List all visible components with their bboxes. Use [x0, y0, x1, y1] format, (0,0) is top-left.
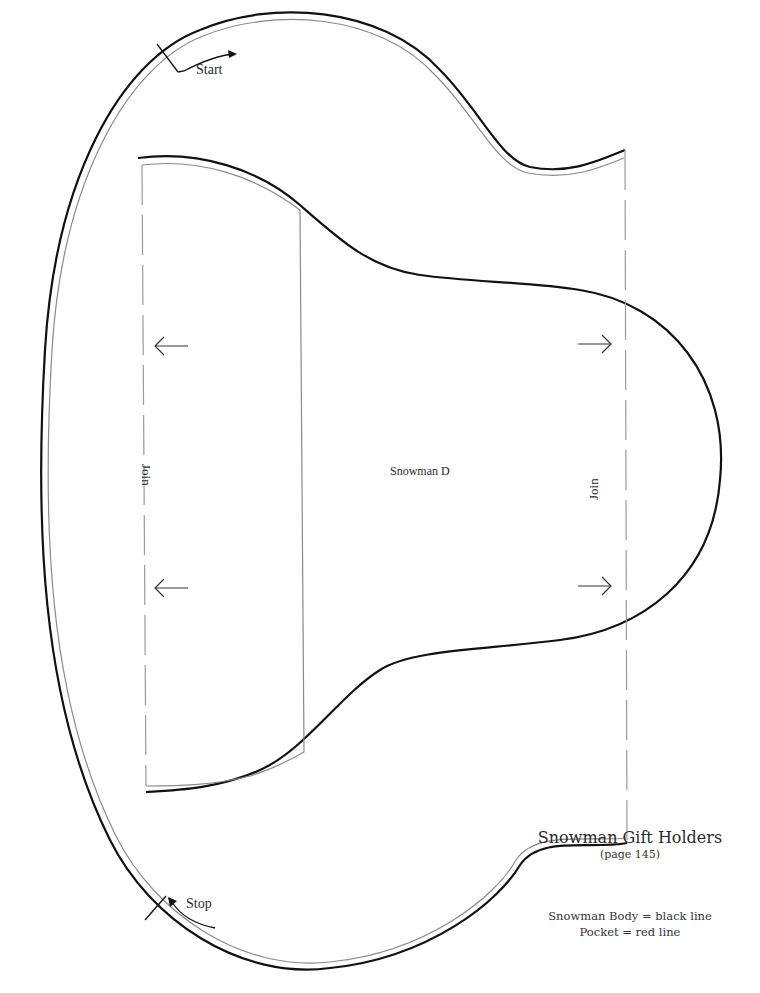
join-right-dash — [625, 150, 627, 843]
title-block: Snowman Gift Holders (page 145) — [520, 828, 740, 861]
outer-top-body-line — [200, 12, 625, 169]
arrow-left-icon — [155, 337, 188, 355]
join-left-label: Join — [138, 464, 154, 486]
pattern-subtitle: (page 145) — [520, 848, 740, 861]
legend-pocket: Pocket = red line — [520, 924, 740, 940]
outer-top-pocket-line — [203, 19, 624, 175]
join-right-label: Join — [586, 478, 602, 500]
legend-body: Snowman Body = black line — [520, 908, 740, 924]
legend: Snowman Body = black line Pocket = red l… — [520, 908, 740, 940]
stop-tick — [145, 896, 166, 920]
arrow-right-icon — [578, 577, 611, 595]
piece-name: Snowman D — [390, 464, 450, 479]
stop-label: Stop — [186, 896, 212, 912]
inner-pocket-line — [142, 164, 304, 786]
arrow-left-icon — [155, 579, 188, 597]
arrow-right-icon — [578, 335, 611, 353]
start-label: Start — [196, 62, 222, 78]
start-arrowhead — [228, 50, 237, 58]
pattern-title: Snowman Gift Holders — [520, 828, 740, 847]
